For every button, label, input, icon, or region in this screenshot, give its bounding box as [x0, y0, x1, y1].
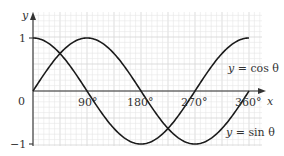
origin-label: 0: [18, 95, 25, 108]
y-tick-label-1: 1: [19, 32, 26, 45]
y-axis-label: y: [21, 9, 29, 22]
x-tick-label-90: 90°: [78, 96, 98, 109]
y-tick-label-minus-1: −1: [10, 138, 26, 151]
x-tick-label-270: 270°: [181, 96, 208, 109]
sin-curve-label: y = sin θ: [225, 126, 275, 139]
cos-curve-label: y = cos θ: [227, 62, 279, 75]
y-axis-arrow-icon: [30, 12, 36, 20]
x-axis-label: x: [267, 95, 274, 108]
x-tick-label-360: 360°: [235, 96, 262, 109]
x-tick-label-180: 180°: [127, 96, 154, 109]
trig-chart: y x 0 1 −1 90° 180° 270° 360° y = cos θ …: [0, 0, 284, 156]
x-axis-arrow-icon: [258, 88, 266, 94]
